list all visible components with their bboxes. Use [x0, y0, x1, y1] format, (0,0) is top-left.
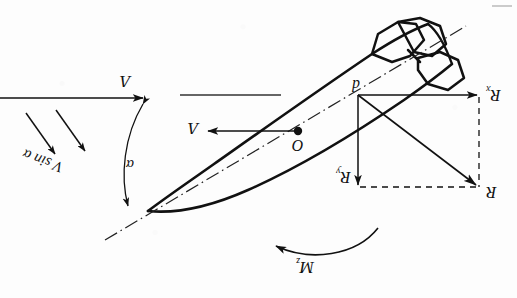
label-pressure-center: d	[352, 76, 360, 94]
longitudinal-axis	[105, 26, 466, 240]
label-angle-of-attack: α	[126, 156, 134, 173]
body-tail-edge	[428, 24, 452, 64]
label-normal-force-base: R	[340, 168, 350, 187]
force-resolution	[358, 95, 479, 187]
label-body-velocity: Λ	[188, 118, 198, 138]
normal-velocity-arrows	[26, 110, 85, 154]
label-resultant-force: R	[486, 182, 496, 202]
label-pitching-moment: Mz	[296, 256, 314, 277]
label-pitching-moment-subscript: z	[296, 256, 300, 267]
pitching-moment-arc	[276, 228, 378, 255]
resultant-force-vector	[358, 95, 476, 185]
angle-of-attack-arc	[124, 104, 143, 206]
label-axial-force-subscript: x	[486, 84, 490, 95]
label-axial-force-base: R	[490, 86, 500, 105]
center-of-mass-point	[294, 127, 302, 135]
missile-force-diagram	[0, 0, 517, 298]
label-center-of-mass: O	[292, 136, 304, 154]
label-axial-force: Rx	[486, 84, 501, 105]
label-normal-force-subscript: y	[336, 166, 340, 177]
label-freestream-velocity: Λ	[120, 71, 130, 91]
label-pitching-moment-base: M	[300, 258, 314, 277]
label-normal-force: Ry	[336, 166, 351, 187]
normal-velocity-arrow-2	[56, 110, 85, 151]
